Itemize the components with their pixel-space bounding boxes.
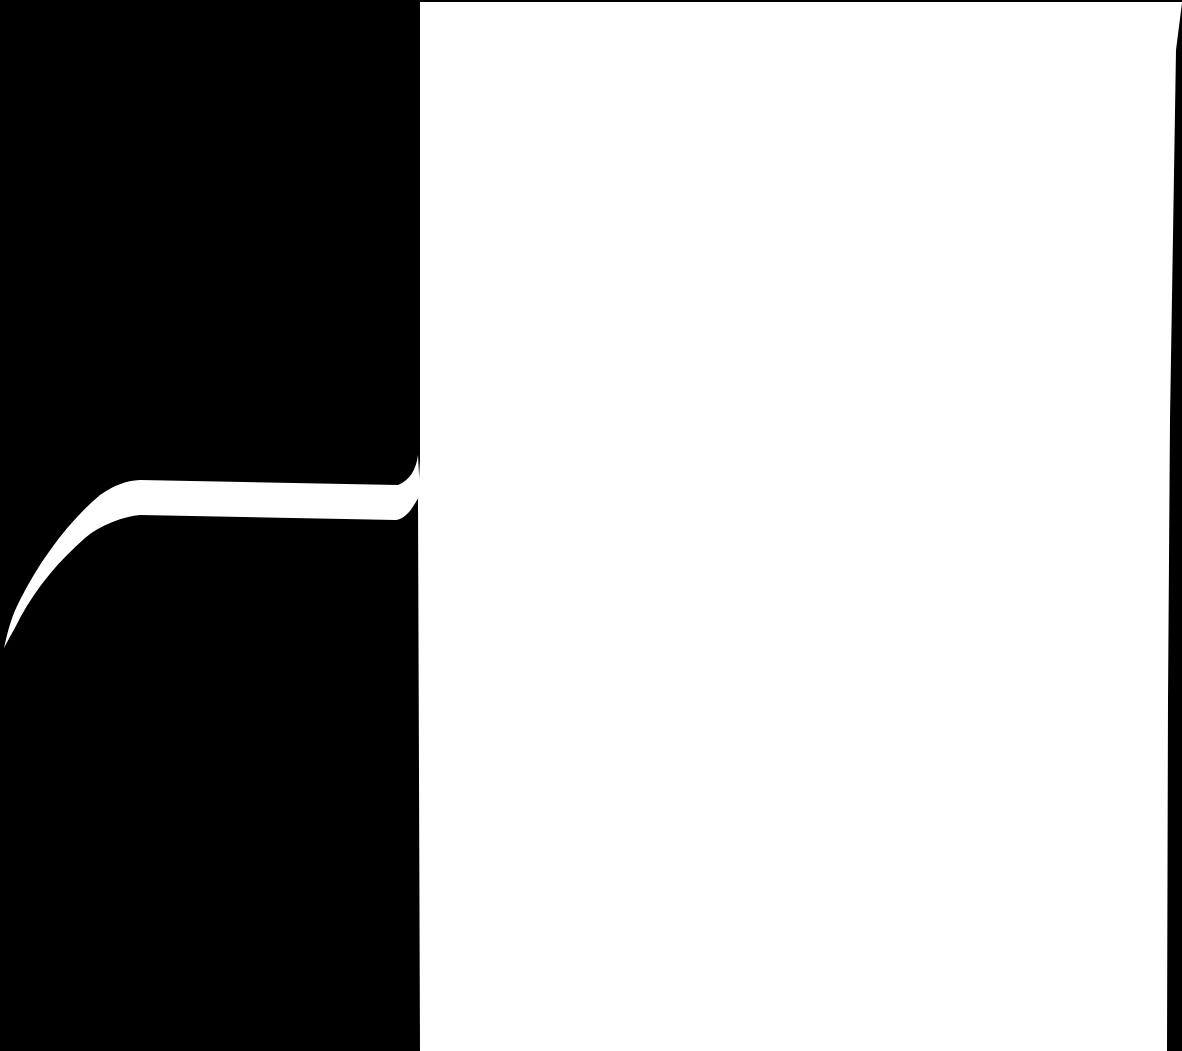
white-panel — [418, 2, 1182, 1051]
curved-strip — [4, 455, 420, 648]
mask-shapes — [0, 0, 1182, 1051]
